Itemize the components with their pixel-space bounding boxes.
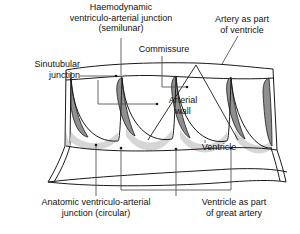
leaflet-pillar-3 — [227, 77, 245, 139]
artery-right-wall — [273, 69, 277, 150]
leader-artery-part — [222, 36, 238, 64]
ventricle-right-wall — [277, 150, 286, 182]
ventricle-base-bottom-rim — [48, 181, 286, 186]
ventricle-left-wall — [48, 146, 65, 182]
ventricle-group — [48, 146, 287, 186]
hinge-arc-1 — [71, 78, 122, 141]
ventricle-left-wall-inner — [54, 146, 70, 182]
anatomic-dot-1 — [95, 144, 98, 147]
leader-line-group — [80, 36, 238, 196]
label-haemodynamic-junction: Haemodynamic ventriculo-arterial junctio… — [48, 2, 194, 34]
artery-left-wall — [65, 70, 66, 146]
artery-top-rim — [66, 63, 273, 70]
leaflet-pillar-left-edge — [71, 78, 88, 137]
figure-canvas: Haemodynamic ventriculo-arterial junctio… — [0, 0, 300, 234]
anatomic-dot-2 — [120, 147, 123, 150]
label-artery-as-part-of-ventricle: Artery as part of ventricle — [192, 14, 292, 35]
label-commissure: Commissure — [118, 44, 210, 55]
ventricle-right-wall-inner — [271, 148, 280, 181]
label-ventricle: Ventricle — [188, 142, 250, 153]
leader-sinutubular-dot — [115, 75, 118, 78]
leaflet-pillar-right-edge — [263, 78, 272, 146]
label-sinutubular-junction: Sinutubular junction — [2, 59, 80, 80]
anatomic-dot-3 — [175, 148, 178, 151]
label-anatomic-junction: Anatomic ventriculo-arterial junction (c… — [14, 197, 178, 218]
ventricle-base-top-rim — [48, 169, 287, 182]
label-arterial-wall: Arterial wall — [155, 95, 211, 116]
leaflet-pillar-1 — [117, 77, 135, 136]
leader-haemodynamic-elbow — [98, 80, 157, 104]
label-ventricle-as-part-of-great-artery: Ventricle as part of great artery — [180, 197, 288, 218]
leader-commissure-dot — [186, 86, 189, 89]
